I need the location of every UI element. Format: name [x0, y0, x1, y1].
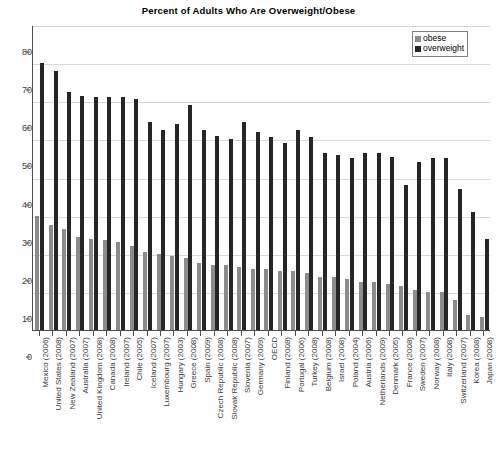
- bar-obese[interactable]: [413, 290, 417, 330]
- bar-group[interactable]: [451, 26, 464, 330]
- bar-group[interactable]: [168, 26, 181, 330]
- bar-group[interactable]: [370, 26, 383, 330]
- bar-obese[interactable]: [305, 273, 309, 330]
- bar-obese[interactable]: [440, 292, 444, 330]
- bar-obese[interactable]: [291, 271, 295, 330]
- bar-group[interactable]: [478, 26, 491, 330]
- bar-obese[interactable]: [157, 254, 161, 330]
- bar-group[interactable]: [154, 26, 167, 330]
- bar-overweight[interactable]: [296, 130, 300, 330]
- bar-obese[interactable]: [426, 292, 430, 330]
- bar-obese[interactable]: [76, 237, 80, 330]
- bar-group[interactable]: [208, 26, 221, 330]
- bar-overweight[interactable]: [404, 185, 408, 330]
- bar-group[interactable]: [289, 26, 302, 330]
- bar-group[interactable]: [316, 26, 329, 330]
- bar-obese[interactable]: [318, 277, 322, 330]
- bar-overweight[interactable]: [80, 96, 84, 330]
- bar-overweight[interactable]: [148, 122, 152, 330]
- bar-overweight[interactable]: [242, 122, 246, 330]
- bar-group[interactable]: [464, 26, 477, 330]
- bar-group[interactable]: [356, 26, 369, 330]
- bar-group[interactable]: [329, 26, 342, 330]
- bar-obese[interactable]: [184, 258, 188, 330]
- bar-overweight[interactable]: [202, 130, 206, 330]
- bar-group[interactable]: [410, 26, 423, 330]
- bar-overweight[interactable]: [94, 97, 98, 330]
- bar-overweight[interactable]: [444, 158, 448, 330]
- bar-overweight[interactable]: [377, 153, 381, 330]
- bar-obese[interactable]: [211, 265, 215, 330]
- bar-group[interactable]: [127, 26, 140, 330]
- bar-group[interactable]: [222, 26, 235, 330]
- bar-group[interactable]: [100, 26, 113, 330]
- bar-overweight[interactable]: [188, 105, 192, 330]
- bar-overweight[interactable]: [350, 158, 354, 330]
- bar-obese[interactable]: [345, 279, 349, 330]
- bar-overweight[interactable]: [161, 130, 165, 330]
- bar-obese[interactable]: [332, 277, 336, 330]
- bar-obese[interactable]: [372, 282, 376, 330]
- bar-obese[interactable]: [386, 284, 390, 330]
- bar-obese[interactable]: [359, 282, 363, 330]
- bar-overweight[interactable]: [54, 71, 58, 330]
- bar-overweight[interactable]: [309, 137, 313, 330]
- bar-group[interactable]: [46, 26, 59, 330]
- bar-overweight[interactable]: [417, 162, 421, 330]
- bar-overweight[interactable]: [471, 212, 475, 330]
- bar-obese[interactable]: [130, 246, 134, 330]
- bar-obese[interactable]: [49, 225, 53, 330]
- bar-group[interactable]: [302, 26, 315, 330]
- bar-obese[interactable]: [62, 229, 66, 330]
- bar-overweight[interactable]: [269, 137, 273, 330]
- bar-overweight[interactable]: [431, 158, 435, 330]
- bar-overweight[interactable]: [40, 63, 44, 330]
- bar-group[interactable]: [249, 26, 262, 330]
- bar-overweight[interactable]: [283, 143, 287, 330]
- bar-overweight[interactable]: [121, 97, 125, 330]
- bar-group[interactable]: [87, 26, 100, 330]
- bar-obese[interactable]: [89, 239, 93, 331]
- bar-group[interactable]: [141, 26, 154, 330]
- bar-overweight[interactable]: [256, 132, 260, 330]
- bar-group[interactable]: [383, 26, 396, 330]
- bar-overweight[interactable]: [323, 153, 327, 330]
- bar-overweight[interactable]: [215, 136, 219, 330]
- bar-obese[interactable]: [116, 242, 120, 330]
- bar-obese[interactable]: [264, 269, 268, 330]
- bar-obese[interactable]: [237, 267, 241, 330]
- bar-overweight[interactable]: [67, 92, 71, 330]
- bar-group[interactable]: [275, 26, 288, 330]
- bar-group[interactable]: [195, 26, 208, 330]
- bar-obese[interactable]: [251, 269, 255, 330]
- bar-obese[interactable]: [170, 256, 174, 330]
- bar-obese[interactable]: [466, 315, 470, 330]
- bar-group[interactable]: [181, 26, 194, 330]
- bar-group[interactable]: [397, 26, 410, 330]
- bar-overweight[interactable]: [229, 139, 233, 330]
- bar-group[interactable]: [262, 26, 275, 330]
- legend-item[interactable]: overweight: [415, 44, 464, 54]
- bar-overweight[interactable]: [458, 189, 462, 330]
- bar-obese[interactable]: [103, 240, 107, 330]
- bar-obese[interactable]: [399, 286, 403, 330]
- bar-obese[interactable]: [480, 317, 484, 330]
- bar-obese[interactable]: [35, 216, 39, 330]
- bar-obese[interactable]: [143, 252, 147, 330]
- bar-overweight[interactable]: [336, 155, 340, 330]
- bar-group[interactable]: [424, 26, 437, 330]
- bar-obese[interactable]: [278, 271, 282, 330]
- bar-overweight[interactable]: [390, 157, 394, 330]
- bar-obese[interactable]: [197, 263, 201, 330]
- bar-group[interactable]: [33, 26, 46, 330]
- bar-overweight[interactable]: [363, 153, 367, 330]
- bar-group[interactable]: [437, 26, 450, 330]
- bar-overweight[interactable]: [107, 97, 111, 330]
- bar-group[interactable]: [343, 26, 356, 330]
- bar-group[interactable]: [114, 26, 127, 330]
- bar-overweight[interactable]: [485, 239, 489, 331]
- bar-obese[interactable]: [453, 300, 457, 331]
- bar-obese[interactable]: [224, 265, 228, 330]
- bar-overweight[interactable]: [134, 99, 138, 330]
- bar-group[interactable]: [235, 26, 248, 330]
